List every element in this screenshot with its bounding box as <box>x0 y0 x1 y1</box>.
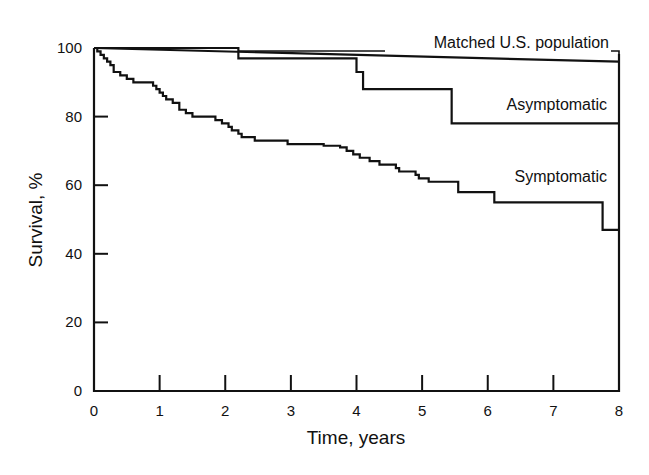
x-tick-label: 3 <box>287 402 295 419</box>
label-asymptomatic: Asymptomatic <box>507 96 607 113</box>
x-tick-label: 7 <box>549 402 557 419</box>
x-tick-label: 0 <box>90 402 98 419</box>
x-axis-ticks: 012345678 <box>90 375 623 419</box>
y-tick-label: 60 <box>65 176 82 193</box>
y-tick-label: 100 <box>57 39 82 56</box>
survival-chart: 012345678 020406080100 Time, years Survi… <box>0 0 649 475</box>
x-tick-label: 1 <box>155 402 163 419</box>
series-symptomatic <box>94 48 619 230</box>
x-tick-label: 2 <box>221 402 229 419</box>
y-axis-ticks: 020406080100 <box>57 39 108 399</box>
y-tick-label: 20 <box>65 313 82 330</box>
y-tick-label: 80 <box>65 108 82 125</box>
x-tick-label: 8 <box>615 402 623 419</box>
label-symptomatic: Symptomatic <box>515 168 607 185</box>
matched-label-bracket <box>611 51 619 56</box>
y-tick-label: 40 <box>65 245 82 262</box>
x-axis-title: Time, years <box>307 427 406 448</box>
x-tick-label: 4 <box>352 402 360 419</box>
x-tick-label: 6 <box>484 402 492 419</box>
series-lines <box>94 48 619 230</box>
y-tick-label: 0 <box>74 382 82 399</box>
label-matched-population: Matched U.S. population <box>434 34 609 51</box>
x-tick-label: 5 <box>418 402 426 419</box>
y-axis-title: Survival, % <box>25 172 46 267</box>
